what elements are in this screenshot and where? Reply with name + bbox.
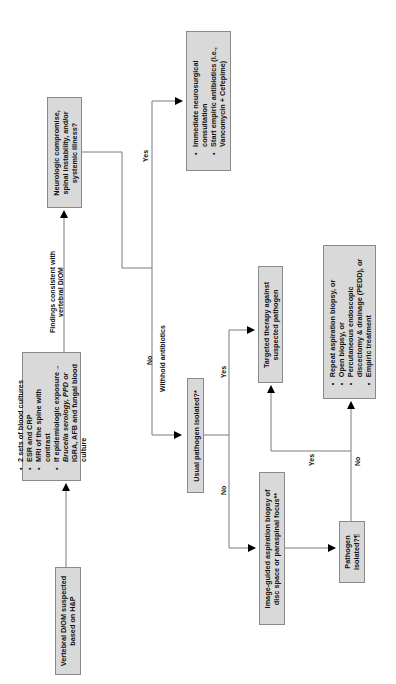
node-next-steps-text: Repeat aspiration biopsy, or Open biopsy… [327, 259, 372, 385]
node-pathogen-isolated: Pathogen isolated?¶ [339, 521, 365, 583]
node-usual-pathogen-text: Usual pathogen isolated?* [191, 390, 200, 482]
node-emergency: Immediate neurosurgical consultation Sta… [186, 31, 231, 171]
node-neuro-question: Neurologic compromise, spinal instabilit… [47, 97, 82, 208]
label-neuro-yes: Yes [142, 150, 150, 162]
label-withhold-antibiotics: Withhold antibiotics [159, 325, 167, 392]
node-start-text: Vertebral D/OM suspected based on H&P [59, 576, 77, 666]
node-targeted-therapy: Targeted therapy against suspected patho… [258, 266, 283, 383]
node-emergency-text: Immediate neurosurgical consultation Sta… [191, 47, 227, 155]
label-usual-yes: Yes [220, 366, 228, 378]
label-findings: Findings consistent with vertebral D/OM [49, 251, 65, 333]
label-usual-no: No [220, 486, 228, 495]
node-next-steps: Repeat aspiration biopsy, or Open biopsy… [323, 245, 376, 399]
label-neuro-no: No [146, 356, 154, 365]
label-path-no: No [354, 457, 362, 466]
node-targeted-therapy-text: Targeted therapy against suspected patho… [262, 281, 280, 367]
node-neuro-question-text: Neurologic compromise, spinal instabilit… [51, 110, 78, 196]
node-usual-pathogen: Usual pathogen isolated?* [187, 378, 204, 493]
node-biopsy-text: Image-guided aspiration biopsy of disc s… [263, 489, 281, 608]
node-workup-text: 2 sets of blood cultures ESR and CRP MRI… [16, 364, 88, 470]
node-biopsy: Image-guided aspiration biopsy of disc s… [259, 472, 285, 625]
label-path-yes: Yes [308, 454, 316, 466]
node-workup: 2 sets of blood cultures ESR and CRP MRI… [22, 352, 81, 481]
node-pathogen-isolated-text: Pathogen isolated?¶ [343, 534, 361, 570]
node-start: Vertebral D/OM suspected based on H&P [55, 567, 81, 675]
flowchart: Vertebral D/OM suspected based on H&P 2 … [0, 0, 396, 684]
